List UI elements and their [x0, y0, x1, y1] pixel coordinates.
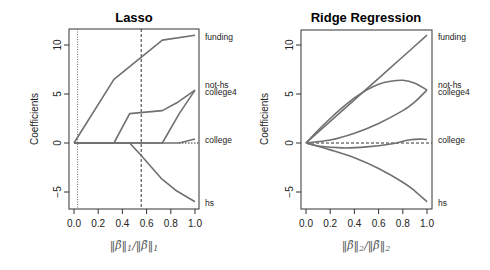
lasso-x-axis-label: ‖β̂‖1/‖β̃‖1	[110, 239, 159, 253]
ridge-x-axis-label: ‖β̂‖2/‖β̃‖2	[342, 239, 391, 253]
label-hs: hs	[205, 198, 214, 208]
x-tick-label: 1.0	[188, 218, 202, 229]
ridge-y-axis: −50510	[284, 39, 301, 198]
label-hs: hs	[438, 198, 447, 208]
series-hs	[74, 143, 195, 202]
svg-text:‖β̂‖1/‖β̃‖1: ‖β̂‖1/‖β̃‖1	[110, 239, 159, 253]
series-funding	[74, 35, 195, 143]
x-tick-label: 0.0	[67, 218, 81, 229]
ridge-series-labels: funding not-hs college4 college hs	[438, 32, 470, 208]
x-tick-label: 0.8	[396, 218, 410, 229]
y-tick-label: 0	[52, 140, 63, 146]
x-tick-label: 0.2	[91, 218, 105, 229]
x-tick-label: 0.8	[164, 218, 178, 229]
label-funding: funding	[205, 32, 233, 42]
lasso-x-axis: 0.00.20.40.60.81.0	[67, 209, 202, 229]
label-funding: funding	[438, 32, 466, 42]
y-tick-label: 5	[52, 91, 63, 97]
svg-text:‖β̂‖2/‖β̃‖2: ‖β̂‖2/‖β̃‖2	[342, 239, 391, 253]
y-tick-label: −5	[284, 186, 295, 198]
lasso-series-labels: funding not-hs college4 college hs	[205, 32, 237, 208]
series-college4	[74, 90, 195, 143]
series-not-hs	[306, 80, 427, 143]
ridge-panel: Ridge Regression −50510 0.00.20.40.60.81…	[259, 10, 470, 253]
y-tick-label: −5	[52, 186, 63, 198]
label-college: college	[438, 135, 465, 145]
x-tick-label: 0.2	[323, 218, 337, 229]
y-tick-label: 10	[284, 39, 295, 51]
x-tick-label: 0.6	[372, 218, 386, 229]
label-college4: college4	[205, 87, 237, 97]
ridge-plot-frame	[301, 30, 432, 209]
label-college4: college4	[438, 87, 470, 97]
series-college4	[306, 90, 427, 143]
series-funding	[306, 35, 427, 143]
lasso-y-axis-label: Coefficients	[29, 93, 40, 145]
label-college: college	[205, 135, 232, 145]
y-tick-label: 0	[284, 140, 295, 146]
lasso-y-axis: −50510	[52, 39, 69, 198]
ridge-title: Ridge Regression	[311, 10, 422, 25]
x-tick-label: 1.0	[420, 218, 434, 229]
lasso-title: Lasso	[115, 10, 153, 25]
x-tick-label: 0.4	[115, 218, 129, 229]
y-tick-label: 5	[284, 91, 295, 97]
chart-canvas: Lasso −50510 0.00.20.40.60.81.0 Coeffici…	[0, 0, 490, 270]
ridge-coefficient-paths	[306, 35, 427, 202]
x-tick-label: 0.0	[299, 218, 313, 229]
x-tick-label: 0.4	[347, 218, 361, 229]
lasso-coefficient-paths	[74, 35, 195, 202]
ridge-y-axis-label: Coefficients	[259, 93, 270, 145]
lasso-panel: Lasso −50510 0.00.20.40.60.81.0 Coeffici…	[29, 10, 237, 253]
ridge-x-axis: 0.00.20.40.60.81.0	[299, 209, 434, 229]
y-tick-label: 10	[52, 39, 63, 51]
series-hs	[306, 143, 427, 202]
x-tick-label: 0.6	[140, 218, 154, 229]
